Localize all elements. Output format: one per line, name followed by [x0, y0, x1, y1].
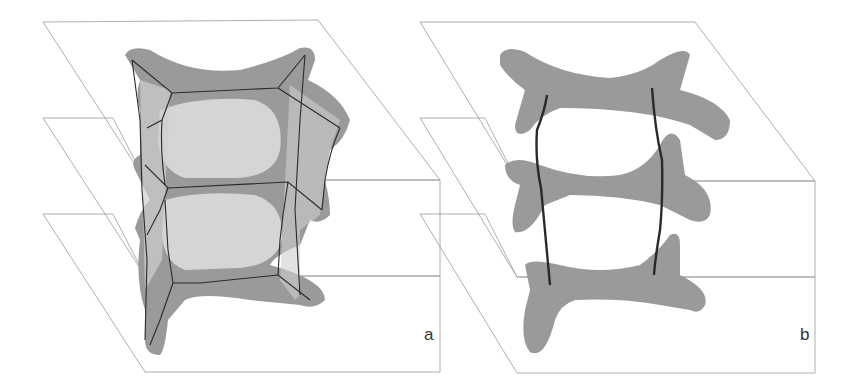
- panel-label-b: b: [800, 325, 809, 345]
- panel-a-surface: [125, 48, 350, 356]
- panel-label-a: a: [424, 325, 433, 345]
- panel-b-cross-sections: [500, 49, 730, 353]
